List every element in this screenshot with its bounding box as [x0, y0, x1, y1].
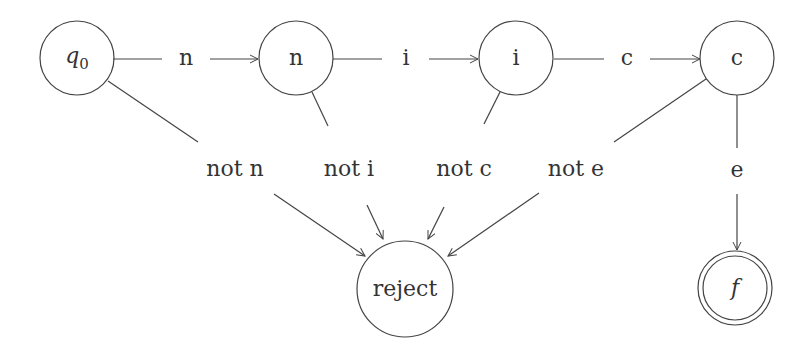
transition-label-e: e: [730, 157, 743, 182]
transition-label-not-c: not c: [436, 156, 492, 181]
transition-label-not-i: not i: [324, 156, 374, 181]
transition-label-n: n: [179, 45, 193, 70]
transition-label-c: c: [621, 45, 633, 70]
transition-label-not-n: not n: [206, 156, 263, 181]
state-label-n: n: [289, 45, 303, 70]
transition-label-not-e: not e: [548, 156, 604, 181]
state-label-c: c: [731, 45, 743, 70]
state-label-reject: reject: [373, 276, 438, 301]
state-label-f: f: [731, 275, 739, 300]
state-label-i: i: [512, 45, 519, 70]
transition-label-i: i: [402, 45, 409, 70]
state-label-q0: q0: [65, 43, 89, 72]
